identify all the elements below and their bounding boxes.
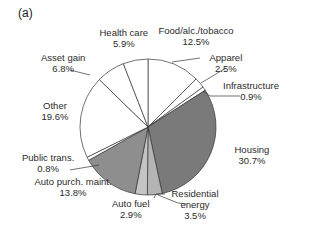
slice-label: Apparel2.5% — [210, 52, 243, 74]
slice-label: Auto fuel2.9% — [112, 198, 150, 220]
slice-percent: 30.7% — [235, 155, 270, 166]
slice-name: Food/alc./tobacco — [159, 25, 234, 36]
slice-percent: 2.9% — [112, 209, 150, 220]
slice-percent: 19.6% — [42, 111, 69, 122]
slice-name: Infrastructure — [223, 80, 279, 91]
slice-label: Infrastructure0.9% — [223, 80, 279, 102]
slice-label: Health care5.9% — [100, 27, 149, 49]
slice-name: energy — [172, 199, 219, 210]
slice-name: Housing — [235, 144, 270, 155]
slice-percent: 0.8% — [22, 163, 74, 174]
slice-percent: 12.5% — [159, 36, 234, 47]
slice-percent: 2.5% — [210, 63, 243, 74]
slice-name: Residential — [172, 188, 219, 199]
slice-label: Food/alc./tobacco12.5% — [159, 25, 234, 47]
slice-percent: 3.5% — [172, 210, 219, 221]
slice-name: Auto fuel — [112, 198, 150, 209]
slice-percent: 0.9% — [223, 91, 279, 102]
slice-label: Other19.6% — [42, 100, 69, 122]
slice-name: Apparel — [210, 52, 243, 63]
slice-label: Residentialenergy3.5% — [172, 188, 219, 221]
slice-percent: 6.8% — [41, 63, 85, 74]
slice-label: Asset gain6.8% — [41, 52, 85, 74]
slice-label: Auto purch. maint.13.8% — [35, 176, 112, 198]
slice-name: Health care — [100, 27, 149, 38]
slice-label: Housing30.7% — [235, 144, 270, 166]
slice-percent: 13.8% — [35, 187, 112, 198]
slice-name: Public trans. — [22, 152, 74, 163]
leader-line — [172, 58, 200, 62]
slice-name: Other — [42, 100, 69, 111]
slice-name: Auto purch. maint. — [35, 176, 112, 187]
slice-percent: 5.9% — [100, 38, 149, 49]
slice-label: Public trans.0.8% — [22, 152, 74, 174]
slice-name: Asset gain — [41, 52, 85, 63]
